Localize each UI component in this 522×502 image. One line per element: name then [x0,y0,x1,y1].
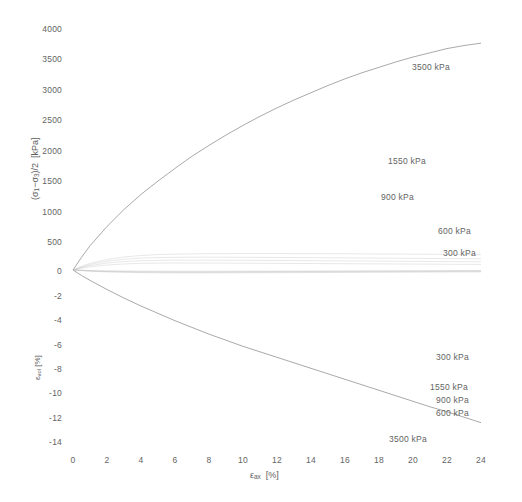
x-tick-18: 18 [368,455,390,465]
curve-label-lower-600: 600 kPa [436,408,469,418]
x-tick-8: 8 [198,455,220,465]
curve-300-kpa [73,263,481,270]
x-tick-0: 0 [62,455,84,465]
curve-label-upper-600: 600 kPa [438,226,471,236]
y-tick-upper-500: 500 [22,237,62,247]
y-axis-title-volumetric-strain: εvol [%] [33,355,42,380]
y-tick-upper-3000: 3000 [22,85,62,95]
y-tick-lower-minus2: -2 [22,291,62,301]
curve-label-upper-1550: 1550 kPa [388,156,426,166]
x-tick-16: 16 [334,455,356,465]
x-tick-2: 2 [96,455,118,465]
x-axis-title: εax [%] [250,470,279,480]
y-tick-upper-2500: 2500 [22,115,62,125]
y-tick-lower-minus6: -6 [22,340,62,350]
y-tick-upper-4000: 4000 [22,24,62,34]
x-tick-12: 12 [266,455,288,465]
y-tick-lower-minus4: -4 [22,315,62,325]
y-tick-lower-minus12: -12 [22,413,62,423]
x-tick-22: 22 [436,455,458,465]
curve-label-lower-900: 900 kPa [436,395,469,405]
curve-1550-kpa [73,254,481,270]
curve-label-upper-900: 900 kPa [381,192,414,202]
curve-label-lower-3500: 3500 kPa [389,434,427,444]
y-tick-upper-3500: 3500 [22,54,62,64]
curve-600-kpa [73,260,481,270]
curve-label-lower-300: 300 kPa [436,352,469,362]
x-tick-14: 14 [300,455,322,465]
y-axis-title-lower-text: εvol [%] [33,355,42,380]
y-tick-lower-minus14: -14 [22,437,62,447]
curve-label-upper-3500: 3500 kPa [412,62,450,72]
y-tick-upper-1000: 1000 [22,207,62,217]
y-tick-upper-0: 0 [22,266,62,276]
x-tick-24: 24 [470,455,492,465]
curve-3500-kpa [73,270,481,423]
triaxial-test-chart: 4000 3500 3000 2500 2000 1500 1000 500 0… [0,0,522,502]
y-tick-lower-minus10: -10 [22,388,62,398]
x-tick-20: 20 [402,455,424,465]
y-tick-upper-2000: 2000 [22,146,62,156]
curve-label-upper-300: 300 kPa [443,248,476,258]
x-tick-10: 10 [232,455,254,465]
x-tick-4: 4 [130,455,152,465]
x-tick-6: 6 [164,455,186,465]
y-tick-upper-1500: 1500 [22,176,62,186]
x-axis-title-text: εax [%] [250,470,279,480]
y-axis-title-deviator-stress: (σ1−σ3)/2 [kPa] [30,137,40,200]
curve-label-lower-1550: 1550 kPa [430,382,468,392]
y-axis-title-text: (σ1−σ3)/2 [kPa] [30,137,40,200]
